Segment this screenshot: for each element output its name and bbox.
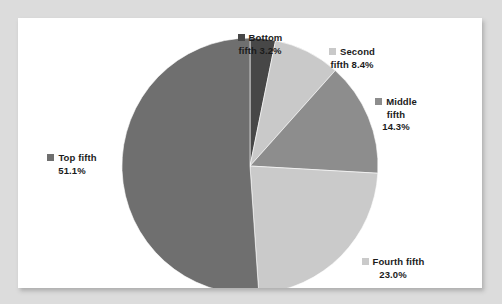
pie-label-bottom-fifth-line1: Bottom: [249, 32, 283, 43]
legend-swatch-middle-fifth: [375, 98, 382, 105]
pie-label-middle-fifth: Middle fifth 14.3%: [352, 96, 440, 134]
pie-label-fourth-fifth: Fourth fifth 23.0%: [340, 256, 446, 281]
pie-label-bottom-fifth-line2: fifth 3.2%: [214, 45, 306, 58]
chart-panel: Bottom fifth 3.2% Second fifth 8.4% Midd…: [18, 18, 482, 288]
pie-label-fourth-fifth-line2: 23.0%: [340, 269, 446, 282]
legend-swatch-second-fifth: [329, 48, 336, 55]
pie-label-middle-fifth-line2: fifth: [352, 109, 440, 122]
pie-label-fourth-fifth-line1: Fourth fifth: [373, 256, 425, 267]
pie-label-top-fifth-line1: Top fifth: [58, 152, 96, 163]
pie-label-middle-fifth-line3: 14.3%: [352, 121, 440, 134]
pie-label-bottom-fifth: Bottom fifth 3.2%: [214, 32, 306, 57]
pie-slices-group: [122, 38, 378, 288]
pie-label-top-fifth-line2: 51.1%: [20, 165, 124, 178]
pie-label-second-fifth-line2: fifth 8.4%: [306, 59, 398, 72]
pie-chart-plot-area: Bottom fifth 3.2% Second fifth 8.4% Midd…: [18, 18, 482, 288]
legend-swatch-top-fifth: [47, 154, 54, 161]
pie-slice-top-fifth: [122, 38, 259, 288]
pie-label-second-fifth-line1: Second: [340, 46, 375, 57]
legend-swatch-bottom-fifth: [238, 34, 245, 41]
pie-label-middle-fifth-line1: Middle: [386, 96, 417, 107]
pie-label-top-fifth: Top fifth 51.1%: [20, 152, 124, 177]
pie-label-second-fifth: Second fifth 8.4%: [306, 46, 398, 71]
legend-swatch-fourth-fifth: [362, 258, 369, 265]
